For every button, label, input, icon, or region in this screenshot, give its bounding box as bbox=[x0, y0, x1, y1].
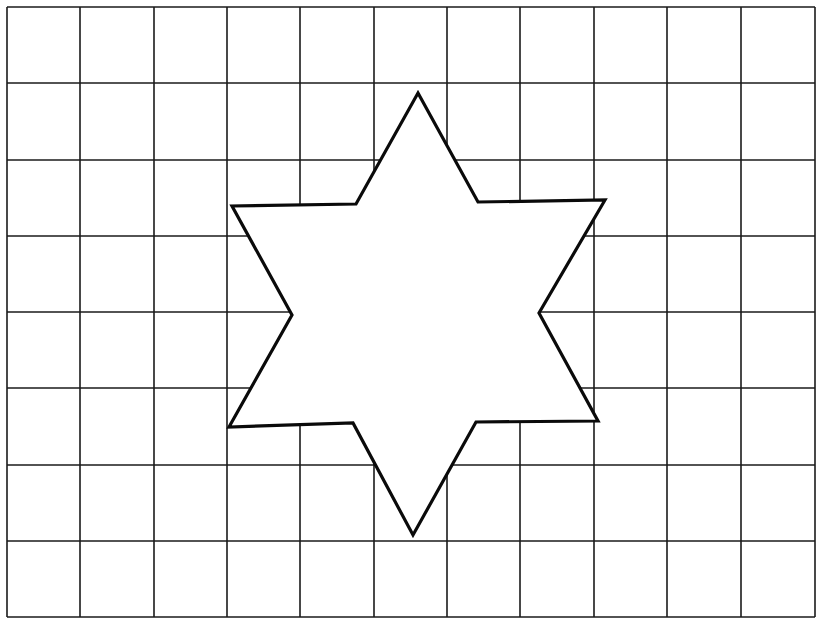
grid-star-diagram bbox=[0, 0, 820, 619]
